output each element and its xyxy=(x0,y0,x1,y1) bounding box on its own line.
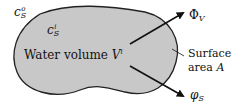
flux-volume-label: ΦV xyxy=(189,9,205,21)
water-volume-label: Water volume Vi xyxy=(24,49,123,61)
outer-concentration-label: cSo xyxy=(14,6,25,18)
flux-surface-label: φS xyxy=(190,89,204,101)
surface-area-label: Surface area A xyxy=(188,47,231,76)
inner-concentration-label: cSi xyxy=(47,24,56,36)
